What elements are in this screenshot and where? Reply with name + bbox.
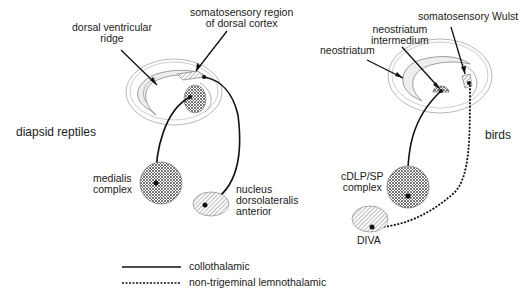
group-label-diapsid-reptiles: diapsid reptiles: [16, 126, 96, 139]
label-cdlp-sp-complex: cDLP/SP complex: [341, 171, 384, 193]
label-somatosensory-dorsal-cortex: somatosensory region of dorsal cortex: [190, 7, 293, 29]
legend-label-collothalamic: collothalamic: [189, 261, 250, 272]
diagram: dorsal ventricular ridge somatosensory r…: [0, 0, 521, 298]
label-nucleus-dorsolateralis-anterior: nucleus dorsolateralis anterior: [236, 184, 298, 217]
label-dorsal-ventricular-ridge: dorsal ventricular ridge: [72, 22, 152, 44]
medialis-complex-nucleus: [140, 162, 182, 204]
label-line: complex: [341, 182, 384, 193]
label-neostriatum: neostriatum: [320, 45, 375, 56]
group-label-birds: birds: [485, 129, 511, 142]
nucleus-dorsolateralis-anterior: [193, 192, 229, 216]
cdlp-sp-complex-nucleus: [387, 166, 429, 208]
label-line: ridge: [72, 33, 152, 44]
label-line: of dorsal cortex: [190, 18, 293, 29]
label-line: anterior: [236, 206, 298, 217]
bird-brain: [388, 39, 492, 113]
label-line: complex: [93, 184, 132, 195]
legend-label-lemnothalamic: non-trigeminal lemnothalamic: [189, 277, 326, 288]
label-medialis-complex: medialis complex: [93, 173, 132, 195]
label-diva: DIVA: [357, 235, 381, 246]
diagram-graphics: [0, 0, 521, 298]
label-neostriatum-intermedium: neostriatum intermedium: [371, 24, 429, 46]
label-line: intermedium: [371, 35, 429, 46]
label-somatosensory-wulst: somatosensory Wulst: [418, 11, 518, 22]
